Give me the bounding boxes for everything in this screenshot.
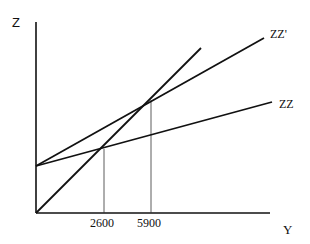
forty-five-degree-line [36,48,201,213]
tick-label-2600: 2600 [90,217,114,229]
zz-prime-line [36,38,264,166]
zz-line [36,102,272,166]
diagram-canvas [0,0,310,244]
zz-prime-label: ZZ' [270,28,287,40]
y-axis-label: Z [12,16,20,29]
x-axis-label: Y [283,223,292,236]
tick-label-5900: 5900 [137,217,161,229]
zz-label: ZZ [279,98,294,110]
